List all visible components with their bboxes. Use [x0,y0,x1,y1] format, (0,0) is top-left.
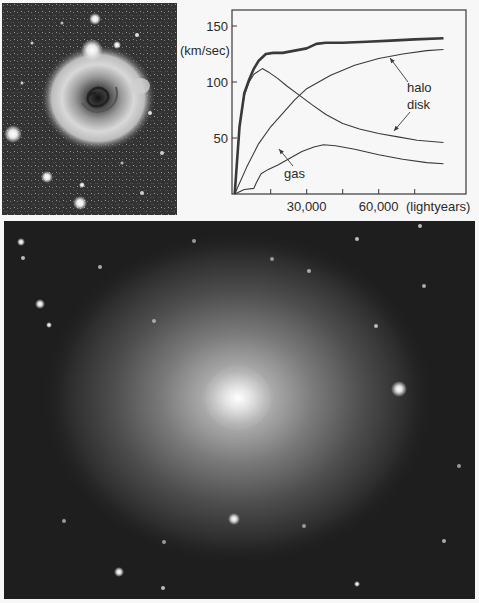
chart-canvas: 5010015030,00060,000(km/sec)(lightyears)… [180,0,479,218]
galaxy-photo-ringed-spiral [2,3,177,215]
y-tick-label: 150 [206,19,228,34]
galaxy-photo-bright-core [4,221,475,599]
label-disk: disk [407,97,431,112]
axis-labels: 5010015030,00060,000(km/sec)(lightyears) [180,19,470,214]
x-tick-label: 30,000 [287,199,327,214]
curve-annotations: halodiskgas [279,58,432,181]
galaxy-image-bottom [4,221,475,599]
y-tick-label: 50 [214,131,228,146]
label-halo: halo [407,80,432,95]
plot-curves [235,38,444,194]
x-tick-label: 60,000 [359,199,399,214]
x-axis-label: (lightyears) [406,199,470,214]
y-tick-label: 100 [206,75,228,90]
arrowhead-halo [390,58,395,63]
axis-ticks [232,26,415,194]
curve-gas [235,145,444,194]
y-axis-label: (km/sec) [180,43,230,58]
galaxy-image-top [2,3,177,215]
rotation-curve-chart: 5010015030,00060,000(km/sec)(lightyears)… [180,0,479,218]
label-gas: gas [284,166,305,181]
